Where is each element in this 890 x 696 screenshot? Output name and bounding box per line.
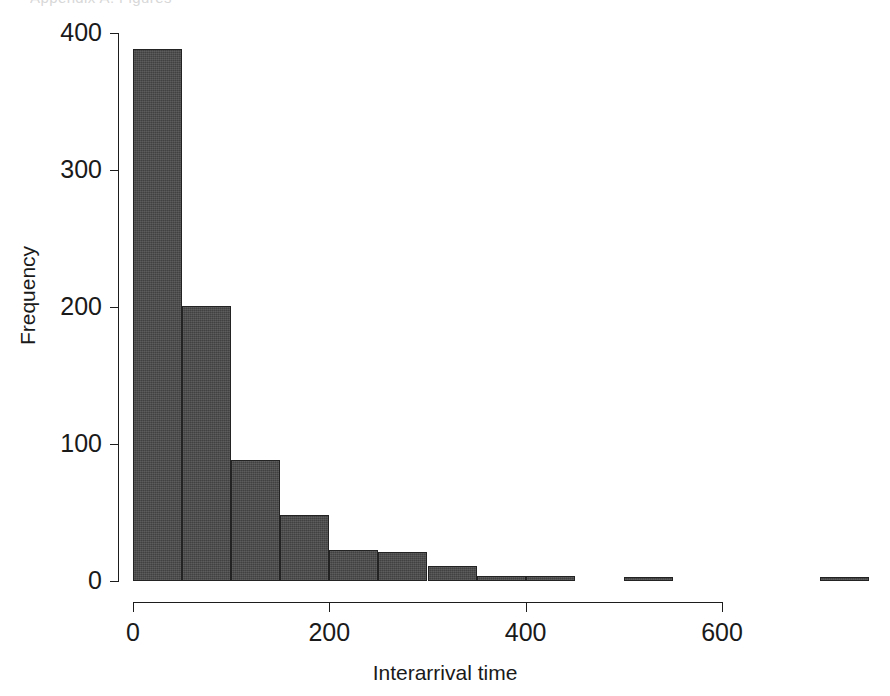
x-axis-tick [133,602,134,612]
histogram-bar [231,460,280,581]
plot-area [133,33,873,581]
histogram-bar [624,577,673,581]
x-axis-tick-label: 200 [269,620,389,645]
y-axis-tick-label: 400 [40,20,102,45]
y-axis-tick [110,33,119,34]
x-axis-title: Interarrival time [0,662,890,683]
histogram-bar [378,552,427,581]
x-axis-tick-label: 600 [662,620,782,645]
x-axis-tick [722,602,723,612]
y-axis-title: Frequency [17,206,38,386]
y-axis-tick [110,170,119,171]
y-axis-tick [110,581,119,582]
x-axis-tick [526,602,527,612]
y-axis-tick-label: 200 [40,294,102,319]
histogram-bar [133,49,182,581]
histogram-bar [182,306,231,581]
y-axis-tick [110,307,119,308]
x-axis-tick [329,602,330,612]
histogram-bar [428,566,477,581]
x-axis-line [133,602,722,603]
x-axis-tick-label: 400 [466,620,586,645]
histogram-bar [477,576,526,581]
histogram-bar [820,577,869,581]
clipped-caption-text: Appendix A: Figures [30,0,172,6]
y-axis-tick-label: 300 [40,157,102,182]
y-axis-tick-label: 100 [40,431,102,456]
y-axis-tick-label: 0 [40,568,102,593]
histogram-bar [329,550,378,582]
y-axis-tick [110,444,119,445]
histogram-bar [280,515,329,581]
x-axis-tick-label: 0 [73,620,193,645]
histogram-figure: Appendix A: Figures 0100200300400 Freque… [0,0,890,696]
histogram-bar [526,576,575,581]
